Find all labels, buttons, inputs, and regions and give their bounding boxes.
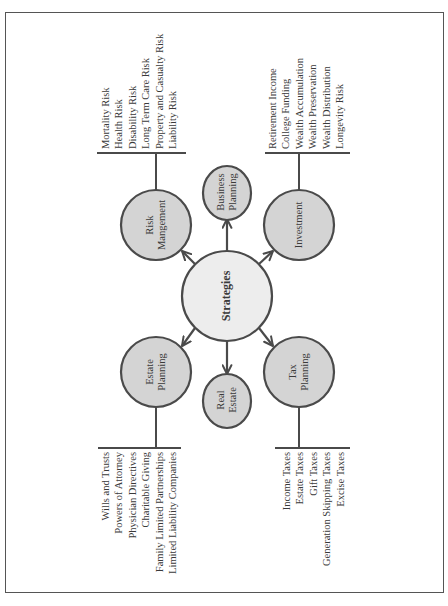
investment-item: Wealth Preservation	[306, 9, 319, 149]
label-strategies-text: Strategies	[220, 256, 232, 336]
label-estate-line2: Planning	[156, 337, 168, 407]
investment-item: Wealth Distribution	[320, 9, 333, 149]
estate-item: Physician Directives	[126, 452, 139, 592]
estate-item: Charitable Giving	[139, 452, 152, 592]
estate-item: Family Limited Partnerships	[153, 452, 166, 592]
investment-list-bracket	[265, 153, 350, 190]
risk-item: Health Risk	[112, 9, 125, 149]
label-risk-management: Risk Mangement	[144, 190, 168, 260]
label-tax-planning: Tax Planning	[287, 337, 311, 407]
label-estate-line1: Estate	[144, 337, 156, 407]
risk-list-bracket	[97, 153, 186, 190]
label-real-estate-line1: Real	[215, 374, 227, 426]
investment-list: Retirement Income College Funding Wealth…	[266, 9, 346, 149]
risk-item: Mortality Risk	[99, 9, 112, 149]
risk-item: Long Term Care Risk	[139, 9, 152, 149]
tax-item: Generation Skipping Taxes	[320, 452, 333, 592]
label-risk-line1: Risk	[144, 190, 156, 260]
label-real-estate: Real Estate	[215, 374, 239, 426]
investment-item: Retirement Income	[266, 9, 279, 149]
label-business-line1: Business	[215, 166, 227, 218]
estate-item: Wills and Trusts	[99, 452, 112, 592]
investment-item: Longevity Risk	[333, 9, 346, 149]
label-strategies: Strategies	[220, 256, 232, 336]
risk-item: Disability Risk	[126, 9, 139, 149]
estate-list: Wills and Trusts Powers of Attorney Phys…	[99, 452, 179, 592]
label-business-line2: Planning	[227, 166, 239, 218]
label-tax-line1: Tax	[287, 337, 299, 407]
tax-item: Income Taxes	[280, 452, 293, 592]
tax-list-bracket	[275, 407, 350, 448]
label-investment: Investment	[293, 190, 305, 260]
risk-list: Mortality Risk Health Risk Disability Ri…	[99, 9, 179, 149]
tax-item: Gift Taxes	[307, 452, 320, 592]
label-investment-line1: Investment	[293, 190, 305, 260]
estate-item: Limited Liability Companies	[166, 452, 179, 592]
tax-item: Excise Taxes	[334, 452, 347, 592]
estate-list-bracket	[98, 407, 181, 448]
risk-item: Liability Risk	[166, 9, 179, 149]
label-risk-line2: Mangement	[156, 190, 168, 260]
risk-item: Property and Casualty Risk	[153, 9, 166, 149]
label-business-planning: Business Planning	[215, 166, 239, 218]
label-tax-line2: Planning	[299, 337, 311, 407]
label-real-estate-line2: Estate	[227, 374, 239, 426]
tax-item: Estate Taxes	[293, 452, 306, 592]
investment-item: College Funding	[279, 9, 292, 149]
investment-item: Wealth Accumulation	[293, 9, 306, 149]
estate-item: Powers of Attorney	[112, 452, 125, 592]
label-estate-planning: Estate Planning	[144, 337, 168, 407]
tax-list: Income Taxes Estate Taxes Gift Taxes Gen…	[280, 452, 347, 592]
